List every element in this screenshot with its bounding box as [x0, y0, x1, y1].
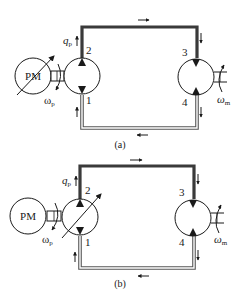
- hydrostatic-transmission-figure: PM ωp 2 1 qp 3 4 ωm (a): [0, 0, 240, 301]
- port-4-label-a: 4: [182, 96, 188, 108]
- port-2-label-a: 2: [86, 44, 92, 56]
- caption-b: (b): [114, 278, 126, 290]
- high-pressure-line-a: [82, 27, 197, 58]
- low-pressure-line-a-outer: [82, 95, 197, 128]
- high-pressure-line-b: [80, 166, 194, 199]
- motor-speed-label-b: ωm: [214, 233, 228, 247]
- low-pressure-line-b-inner: [80, 236, 194, 268]
- port-3-label-a: 3: [182, 46, 188, 58]
- port-2-label-b: 2: [85, 184, 91, 196]
- port-3-label-b: 3: [179, 186, 185, 198]
- pump-speed-label-a: ωp: [44, 94, 55, 108]
- low-pressure-line-a-inner: [82, 95, 197, 128]
- pump-speed-label-b: ωp: [42, 233, 53, 247]
- prime-mover-label-b: PM: [20, 210, 36, 222]
- shaft-coupling-a: [51, 71, 64, 81]
- flow-label-b: qp: [62, 174, 72, 188]
- caption-a: (a): [114, 139, 125, 151]
- port-4-label-b: 4: [179, 236, 185, 248]
- diagram-b: PM ωp 2 1 qp 3 4 ωm (b): [10, 160, 228, 290]
- port-1-label-b: 1: [85, 236, 91, 248]
- low-pressure-line-b-outer: [80, 236, 194, 268]
- diagram-a: PM ωp 2 1 qp 3 4 ωm (a): [15, 20, 231, 151]
- motor-speed-label-a: ωm: [217, 93, 231, 107]
- flow-label-a: qp: [63, 34, 73, 48]
- port-1-label-a: 1: [86, 94, 92, 106]
